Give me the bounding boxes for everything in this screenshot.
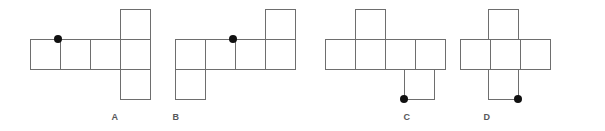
net-square [355, 39, 385, 69]
net-square [355, 9, 385, 39]
option-label-d: D [484, 112, 491, 122]
net-square [325, 39, 355, 69]
net-square [175, 39, 205, 69]
net-square [120, 9, 150, 39]
net-square [488, 9, 518, 39]
net-square [120, 69, 150, 99]
net-square [490, 39, 520, 69]
net-option-a [30, 9, 150, 99]
net-option-b [175, 9, 295, 99]
net-square [265, 9, 295, 39]
net-option-c [325, 9, 445, 103]
net-square [60, 39, 90, 69]
option-label-c: C [404, 112, 411, 122]
net-square [520, 39, 550, 69]
net-square [460, 39, 490, 69]
cube-net-diagram-svg [0, 0, 605, 131]
net-option-d [460, 9, 550, 103]
net-square [488, 69, 518, 99]
option-label-b: B [173, 112, 180, 122]
net-square [385, 39, 415, 69]
net-square [404, 69, 434, 99]
net-square [175, 69, 205, 99]
net-square [30, 39, 60, 69]
option-label-a: A [112, 112, 119, 122]
net-marker-dot [514, 95, 522, 103]
net-square [265, 39, 295, 69]
net-square [205, 39, 235, 69]
net-marker-dot [54, 35, 62, 43]
net-square [90, 39, 120, 69]
net-marker-dot [400, 95, 408, 103]
net-square [415, 39, 445, 69]
net-marker-dot [229, 35, 237, 43]
net-square [235, 39, 265, 69]
net-square [120, 39, 150, 69]
cube-net-figure-board: A B C D [0, 0, 605, 131]
